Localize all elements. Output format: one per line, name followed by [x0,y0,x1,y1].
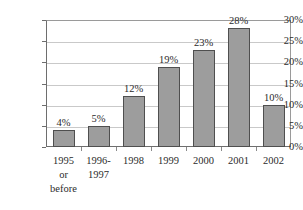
bar-chart: 30% 25% 20% 15% 10% 5% 0% 4% 5% 12% 19% … [0,0,303,210]
x-axis-tick-mark [256,147,257,151]
x-axis-tick-label-line: 1995 [46,154,81,168]
bar[interactable] [88,126,110,147]
bar-value-label: 4% [57,117,71,128]
bar-value-label: 19% [159,54,178,65]
bar-group: 4% [46,20,81,147]
x-axis-tick-label-line: or [46,168,81,182]
x-axis-tick-label-line: 1997 [81,168,116,182]
x-axis-tick-label: 1998 [116,154,151,168]
x-axis-tick-label-line: 2001 [221,154,256,168]
bar-group: 10% [256,20,291,147]
x-axis-tick-mark [186,147,187,151]
bar-group: 28% [221,20,256,147]
x-axis-tick-label-line: 1999 [151,154,186,168]
bar-value-label: 5% [92,113,106,124]
bar-value-label: 23% [194,37,213,48]
x-axis-tick-label: 1996- 1997 [81,154,116,182]
x-axis-tick-mark [151,147,152,151]
bar[interactable] [228,28,250,147]
x-axis-tick-label-line: 1996- [81,154,116,168]
bar-group: 5% [81,20,116,147]
x-axis-tick-label: 2000 [186,154,221,168]
bar-value-label: 10% [264,92,283,103]
bars-layer: 4% 5% 12% 19% 23% 28% 10% [46,20,291,147]
x-axis-tick-label: 1999 [151,154,186,168]
bar-group: 23% [186,20,221,147]
x-axis-tick-label: 2002 [256,154,291,168]
x-axis-tick-label-line: 1998 [116,154,151,168]
bar-group: 19% [151,20,186,147]
x-axis-tick-mark [221,147,222,151]
y-axis-tick-mark [42,147,46,148]
x-axis-tick-label-line: before [46,182,81,196]
bar[interactable] [158,67,180,147]
bar[interactable] [193,50,215,147]
x-axis-tick-label: 2001 [221,154,256,168]
bar-value-label: 28% [229,15,248,26]
x-axis-labels: 1995 or before 1996- 1997 1998 1999 2000… [46,154,291,206]
x-axis-tick-mark [81,147,82,151]
bar[interactable] [123,96,145,147]
x-axis-tick-label-line: 2002 [256,154,291,168]
bar-group: 12% [116,20,151,147]
x-axis-tick-label-line: 2000 [186,154,221,168]
bar-value-label: 12% [124,83,143,94]
x-axis-tick-mark [116,147,117,151]
x-axis-tick-label: 1995 or before [46,154,81,196]
bar[interactable] [53,130,75,147]
bar[interactable] [263,105,285,147]
